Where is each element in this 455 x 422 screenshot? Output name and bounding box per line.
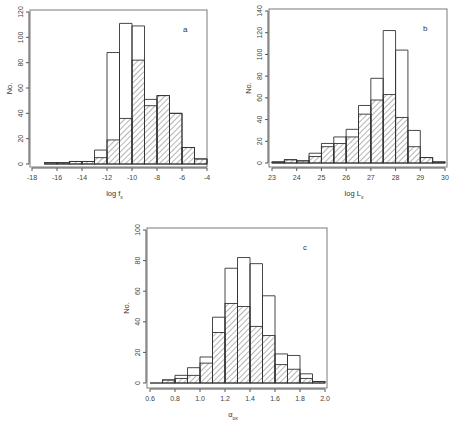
y-axis-title: No. xyxy=(244,82,253,94)
hatched-bar xyxy=(334,143,346,163)
hatched-bar xyxy=(157,96,170,164)
x-tick-label: 1.2 xyxy=(220,395,230,402)
open-histogram xyxy=(272,31,445,163)
x-tick-label: 0.8 xyxy=(170,395,180,402)
hatched-bar xyxy=(163,380,176,383)
hatched-bar xyxy=(309,156,321,163)
y-axis: 020406080100 xyxy=(134,224,146,385)
x-tick-label: -10 xyxy=(127,174,137,181)
hatched-bar xyxy=(275,365,288,383)
y-tick-label: 60 xyxy=(256,94,263,102)
y-tick-label: 0 xyxy=(256,161,263,165)
y-tick-label: 20 xyxy=(256,137,263,145)
y-tick-label: 40 xyxy=(134,318,141,326)
x-tick-label: 25 xyxy=(318,174,326,181)
y-tick-label: 0 xyxy=(17,162,24,166)
y-tick-label: 80 xyxy=(17,59,24,67)
y-tick-label: 120 xyxy=(17,6,24,18)
x-axis-title: log fx xyxy=(106,189,123,200)
x-axis-title: αox xyxy=(228,410,238,421)
panel-label: b xyxy=(423,24,428,33)
hatched-bar xyxy=(132,60,145,164)
y-tick-label: 60 xyxy=(17,84,24,92)
hatched-bar xyxy=(95,158,108,164)
x-tick-label: 27 xyxy=(367,174,375,181)
hatched-bar xyxy=(396,117,408,163)
x-tick-label: -16 xyxy=(52,174,62,181)
y-tick-label: 0 xyxy=(134,381,141,385)
hatched-bar xyxy=(420,158,432,163)
hatched-bar xyxy=(346,137,358,163)
hatched-bar xyxy=(284,160,296,163)
figure: -18-16-14-12-10-8-6-4020406080100120log … xyxy=(0,0,455,422)
x-tick-label: 24 xyxy=(293,174,301,181)
histogram-panel-c: 0.60.81.01.21.41.61.82.0020406080100αoxN… xyxy=(122,224,330,421)
y-tick-label: 80 xyxy=(134,257,141,265)
x-tick-label: -12 xyxy=(102,174,112,181)
x-tick-label: 0.6 xyxy=(145,395,155,402)
hatched-bar xyxy=(225,303,238,383)
x-tick-label: 1.4 xyxy=(245,395,255,402)
hatched-bar xyxy=(120,118,133,164)
hatched-bar xyxy=(321,147,333,163)
hatched-bar xyxy=(250,326,263,383)
y-axis: 020406080100120 xyxy=(17,6,29,166)
x-tick-label: 28 xyxy=(392,174,400,181)
x-tick-label: -6 xyxy=(179,174,185,181)
x-tick-label: 2.0 xyxy=(320,395,330,402)
hatched-bar xyxy=(213,333,226,383)
y-tick-label: 40 xyxy=(256,116,263,124)
x-axis-title: log Lx xyxy=(345,189,364,200)
y-tick-label: 100 xyxy=(134,224,141,236)
x-axis: 2324252627282930 xyxy=(268,168,449,181)
hatched-bar xyxy=(408,147,420,163)
x-tick-label: -14 xyxy=(77,174,87,181)
x-tick-label: -18 xyxy=(27,174,37,181)
panel-label: a xyxy=(183,25,188,34)
x-axis: 0.60.81.01.21.41.61.82.0 xyxy=(145,389,330,402)
y-tick-label: 20 xyxy=(17,135,24,143)
hatched-bar xyxy=(371,100,383,163)
x-tick-label: -8 xyxy=(154,174,160,181)
x-axis: -18-16-14-12-10-8-6-4 xyxy=(27,168,210,181)
hatched-bar xyxy=(195,159,208,164)
hatched-bar xyxy=(359,114,371,163)
hatched-bar xyxy=(182,148,195,164)
y-axis-title: No. xyxy=(122,302,131,314)
x-tick-label: 1.0 xyxy=(195,395,205,402)
hatched-bar xyxy=(238,307,251,384)
hatched-bar xyxy=(288,369,301,383)
y-tick-label: 40 xyxy=(17,109,24,117)
hatched-bar xyxy=(107,140,120,164)
hatched-bar xyxy=(383,95,395,163)
histogram-panel-b: 2324252627282930020406080100120140log Lx… xyxy=(244,5,449,200)
hatched-bar xyxy=(175,378,188,383)
x-tick-label: 29 xyxy=(416,174,424,181)
open-histogram xyxy=(150,258,325,383)
hatched-bar xyxy=(200,363,213,383)
y-tick-label: 100 xyxy=(17,31,24,43)
y-tick-label: 60 xyxy=(134,287,141,295)
x-tick-label: 26 xyxy=(342,174,350,181)
hatched-bar xyxy=(263,336,276,383)
y-tick-label: 80 xyxy=(256,72,263,80)
y-tick-label: 20 xyxy=(134,348,141,356)
y-axis-title: No. xyxy=(5,83,14,95)
x-tick-label: 30 xyxy=(441,174,449,181)
y-tick-label: 140 xyxy=(256,5,263,17)
panel-label: c xyxy=(303,243,307,252)
x-tick-label: 1.8 xyxy=(295,395,305,402)
x-tick-label: 23 xyxy=(268,174,276,181)
y-tick-label: 120 xyxy=(256,27,263,39)
histogram-panel-a: -18-16-14-12-10-8-6-4020406080100120log … xyxy=(5,6,210,200)
x-axis-title-subscript: x xyxy=(361,194,364,200)
x-tick-label: -4 xyxy=(204,174,210,181)
hatched-bar xyxy=(145,106,158,164)
hatched-bar xyxy=(188,375,201,383)
x-tick-label: 1.6 xyxy=(270,395,280,402)
hatched-bar xyxy=(170,113,183,164)
x-axis-title-subscript: ox xyxy=(233,415,239,421)
y-tick-label: 100 xyxy=(256,48,263,60)
hatched-bar xyxy=(300,378,313,383)
y-axis: 020406080100120140 xyxy=(256,5,268,165)
